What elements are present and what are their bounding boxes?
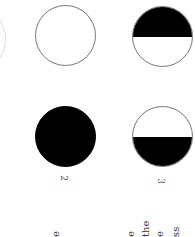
text-fragment: e (50, 231, 61, 237)
text-fragment: e (154, 231, 165, 237)
filled-half (133, 7, 192, 37)
figure-label-2: 2 (59, 175, 69, 181)
text-fragment: ss (170, 227, 181, 237)
partial-circle-left (0, 14, 6, 64)
text-fragment: the (140, 221, 151, 237)
circle-outline (35, 5, 96, 66)
figure-label-3: 3 (156, 178, 166, 184)
circle-filled (35, 106, 96, 167)
circle-top-half-filled (132, 6, 193, 67)
filled-half (133, 137, 192, 167)
circle-bottom-half-filled (132, 106, 193, 167)
text-fragment: e (125, 231, 136, 237)
